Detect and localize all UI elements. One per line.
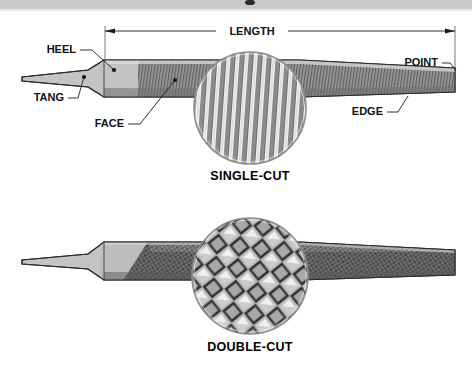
edge-label: EDGE: [352, 105, 383, 117]
illustration-canvas: LENGTH HEEL TANG FACE EDGE PO: [0, 0, 472, 373]
top-page-band: [0, 0, 472, 11]
heel-label: HEEL: [47, 43, 77, 55]
face-label: FACE: [95, 117, 124, 129]
point-label: POINT: [404, 56, 438, 68]
caption-single-cut: SINGLE-CUT: [210, 169, 289, 183]
tang-label: TANG: [34, 91, 64, 103]
length-label: LENGTH: [229, 25, 274, 37]
face-point-dot: [173, 78, 177, 82]
heel-point-dot: [112, 68, 116, 72]
caption-double-cut: DOUBLE-CUT: [207, 340, 293, 354]
file-diagram: LENGTH HEEL TANG FACE EDGE PO: [0, 0, 472, 373]
tang-point-dot: [82, 75, 86, 79]
